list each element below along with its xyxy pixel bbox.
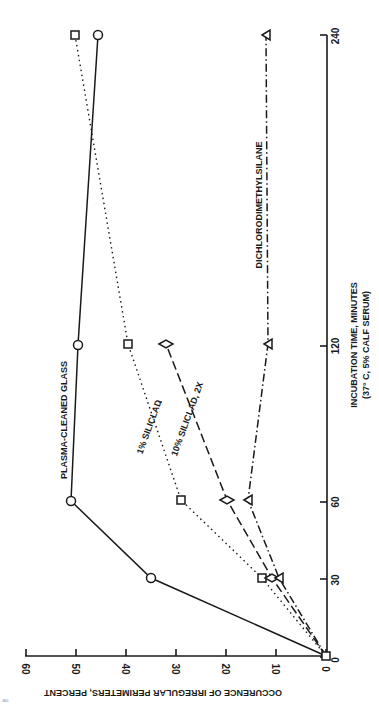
series-1pct-siliclad <box>71 31 326 656</box>
marker-square <box>124 340 132 348</box>
y-axis-title: OCCURENCE OF IRREGULAR PERIMETERS, PERCE… <box>43 688 282 698</box>
time-axis <box>320 35 327 657</box>
y-tick-50: 50 <box>70 663 81 675</box>
marker-square <box>71 31 79 39</box>
marker-circle <box>67 497 76 506</box>
marker-diamond <box>220 496 234 504</box>
label-plasma-cleaned-glass: PLASMA-CLEANED GLASS <box>59 361 69 479</box>
y-tick-10: 10 <box>270 663 281 675</box>
series-plasma-cleaned-glass <box>67 31 327 657</box>
value-tick-labels: 0 10 20 30 40 50 60 <box>20 663 331 675</box>
rotated-line-chart: 0 30 60 120 240 0 10 20 30 40 50 60 OCCU… <box>0 0 379 708</box>
y-tick-60: 60 <box>20 663 31 675</box>
marker-circle <box>74 341 83 350</box>
x-axis-subtitle: (37° C, 5% CALF SERUM) <box>361 291 371 399</box>
value-axis <box>25 649 326 656</box>
x-tick-240: 240 <box>330 27 341 44</box>
y-tick-30: 30 <box>170 663 181 675</box>
y-tick-40: 40 <box>120 663 131 675</box>
x-tick-60: 60 <box>330 496 341 508</box>
marker-square <box>177 496 185 504</box>
y-tick-20: 20 <box>220 663 231 675</box>
x-axis-title: INCUBATION TIME, MINUTES <box>349 282 359 407</box>
series-dichlorodimethylsilane <box>244 30 326 656</box>
x-tick-0: 0 <box>330 657 341 663</box>
x-tick-120: 120 <box>330 337 341 354</box>
label-10pct-siliclad-2x: 10% SILICLAD, 2X <box>169 381 205 458</box>
stray-dot <box>160 401 162 403</box>
origin-marker <box>322 652 330 660</box>
label-1pct-siliclad: 1% SILICLAD <box>135 398 164 455</box>
corner-mark: ao <box>2 696 9 704</box>
time-tick-labels: 0 30 60 120 240 <box>330 27 341 663</box>
marker-diamond <box>159 340 173 348</box>
marker-circle <box>147 574 156 583</box>
y-tick-0: 0 <box>320 666 331 672</box>
label-dichlorodimethylsilane: DICHLORODIMETHYLSILANE <box>254 142 264 269</box>
marker-circle <box>94 31 103 40</box>
marker-triangle <box>275 573 283 583</box>
x-tick-30: 30 <box>330 574 341 586</box>
